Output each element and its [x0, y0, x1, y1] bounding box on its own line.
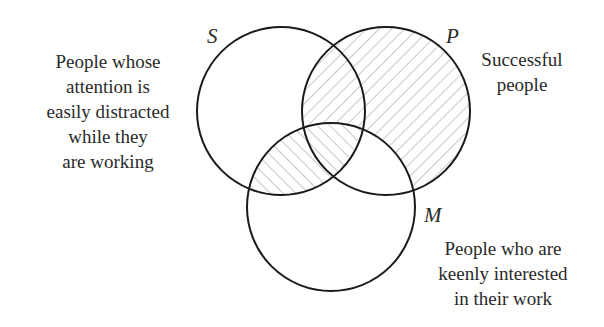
set-description-p: Successful people — [467, 47, 577, 97]
description-line: People whose — [28, 49, 188, 74]
description-line: in their work — [418, 286, 588, 311]
description-line: people — [467, 72, 577, 97]
description-line: attention is — [28, 74, 188, 99]
description-line: while they — [28, 124, 188, 149]
description-line: are working — [28, 149, 188, 174]
description-line: Successful — [467, 47, 577, 72]
description-line: easily distracted — [28, 99, 188, 124]
set-label-p: P — [446, 24, 459, 49]
description-line: keenly interested — [418, 261, 588, 286]
set-description-s: People whose attention is easily distrac… — [28, 49, 188, 174]
description-line: People who are — [418, 236, 588, 261]
set-label-s: S — [207, 24, 218, 49]
set-label-m: M — [424, 203, 442, 228]
set-description-m: People who are keenly interested in thei… — [418, 236, 588, 311]
